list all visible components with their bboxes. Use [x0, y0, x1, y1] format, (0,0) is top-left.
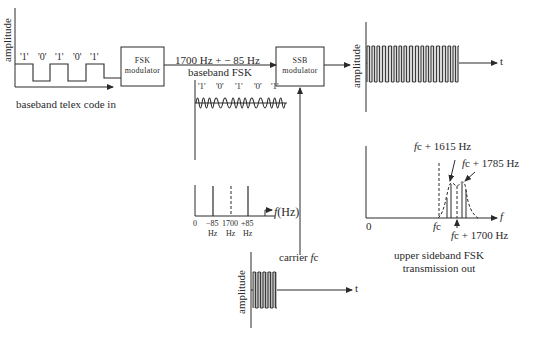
fsk-modulator-line1: FSK — [121, 56, 164, 66]
input-square-wave — [15, 64, 121, 81]
pointer-1785 — [465, 172, 475, 181]
fsk-bit-label: '0' — [216, 82, 224, 91]
carrier-text: carrier — [279, 251, 310, 263]
spectrum-tick-plus85: +85 — [241, 220, 254, 228]
pointer-1615 — [450, 160, 455, 181]
annotation-fc-plus-1700: fc + 1700 Hz — [451, 230, 508, 241]
input-amplitude-label: amplitude — [2, 18, 13, 62]
carrier-waveform-plot — [251, 252, 352, 328]
spectrum-tick-1700: 1700 — [222, 220, 238, 228]
spectrum-tick-unit: Hz — [208, 230, 217, 238]
ssb-modulator-line2: modulator — [276, 66, 324, 76]
baseband-fsk-label: baseband FSK — [188, 67, 252, 78]
output-caption-line2: transmission out — [384, 263, 494, 274]
fsk-bit-label: '1' — [235, 82, 243, 91]
carrier-label: carrier fc — [279, 252, 318, 263]
input-bit-label: '1' — [20, 52, 29, 62]
spectrum-f-axis-label: f(Hz) — [274, 206, 299, 218]
output-spectrum-f-label: f — [500, 211, 503, 222]
input-bit-label: '0' — [38, 52, 47, 62]
fsk-bit-label: '1' — [198, 82, 206, 91]
annotation-text: c + 1700 Hz — [454, 229, 508, 241]
spectrum-f-axis-arrow — [265, 210, 272, 216]
baseband-spectrum-plot — [195, 185, 275, 216]
spectrum-tick-0: 0 — [193, 220, 197, 228]
input-bit-label: '0' — [73, 52, 82, 62]
carrier-time-label: t — [355, 283, 358, 294]
annotation-fc-plus-1615: fc + 1615 Hz — [414, 141, 471, 152]
output-spectrum-origin: 0 — [366, 221, 372, 232]
input-bit-label: '1' — [55, 52, 64, 62]
output-fc-label: fc — [433, 221, 441, 232]
fsk-modulator-line2: modulator — [121, 66, 164, 76]
input-signal-plot — [15, 8, 121, 87]
annotation-text: c + 1615 Hz — [417, 140, 471, 152]
ssb-modulator-label: SSB modulator — [276, 56, 324, 76]
annotation-fc-plus-1785: fc + 1785 Hz — [462, 158, 519, 169]
annotation-text: c + 1785 Hz — [465, 157, 519, 169]
fsk-bit-label: '0' — [254, 82, 262, 91]
fsk-modulator-label: FSK modulator — [121, 56, 164, 76]
usb-envelope — [438, 182, 478, 218]
baseband-fsk-waveform-plot — [195, 80, 287, 160]
input-bit-label: '1' — [90, 52, 99, 62]
carrier-amplitude-label: amplitude — [236, 270, 247, 314]
output-time-label: t — [500, 56, 503, 67]
output-caption-line1: upper sideband FSK — [384, 250, 494, 261]
output-amplitude-label: amplitude — [351, 44, 362, 88]
ssb-modulator-line1: SSB — [276, 56, 324, 66]
spectrum-tick-unit: Hz — [226, 230, 235, 238]
hz-unit: (Hz) — [277, 205, 299, 219]
spectrum-tick-unit: Hz — [243, 230, 252, 238]
output-signal-plot — [366, 22, 497, 112]
c-subscript: c — [314, 251, 319, 263]
fsk-bit-label: '1' — [271, 82, 279, 91]
spectrum-tick-minus85: −85 — [206, 220, 219, 228]
input-caption: baseband telex code in — [16, 99, 116, 110]
fsk-frequency-label: 1700 Hz + − 85 Hz — [175, 55, 260, 66]
